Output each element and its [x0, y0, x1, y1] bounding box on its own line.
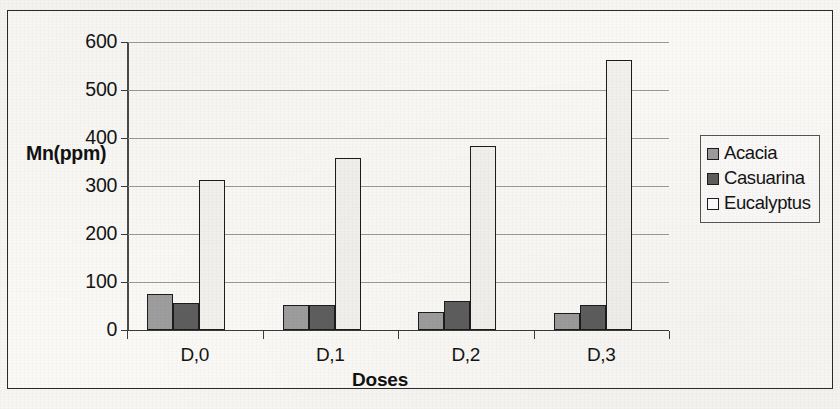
legend-item[interactable]: Casuarina — [707, 166, 811, 191]
x-axis-tick — [669, 331, 670, 339]
bar-casuarina[interactable] — [444, 301, 470, 330]
y-axis-tick-label: 600 — [85, 32, 117, 52]
legend-swatch-icon — [707, 173, 719, 185]
bar-group — [263, 42, 399, 330]
bar-group — [127, 42, 263, 330]
bar-eucalyptus[interactable] — [606, 60, 632, 330]
bar-acacia[interactable] — [147, 294, 173, 330]
y-axis-tick-label: 500 — [85, 80, 117, 100]
legend-label: Eucalyptus — [724, 194, 811, 213]
y-axis-tick — [121, 42, 128, 43]
bar-casuarina[interactable] — [580, 305, 606, 330]
bar-group — [398, 42, 534, 330]
y-axis-tick-label: 100 — [85, 272, 117, 292]
x-axis-title: Doses — [352, 369, 408, 390]
bar-eucalyptus[interactable] — [199, 180, 225, 330]
chart-legend: AcaciaCasuarinaEucalyptus — [700, 135, 820, 223]
bar-chart-figure: 6005004003002001000 Mn(ppm) D,0D,1D,2D,3… — [0, 0, 840, 409]
legend-label: Acacia — [724, 144, 777, 163]
legend-item[interactable]: Acacia — [707, 141, 811, 166]
x-axis-tick — [127, 331, 128, 339]
bar-eucalyptus[interactable] — [335, 158, 361, 330]
bar-eucalyptus[interactable] — [470, 146, 496, 330]
x-axis-tick-label: D,1 — [263, 344, 399, 366]
bar-casuarina[interactable] — [173, 303, 199, 330]
legend-label: Casuarina — [724, 169, 805, 188]
y-axis-tick — [121, 330, 128, 331]
y-axis-tick-label: 300 — [85, 176, 117, 196]
bar-acacia[interactable] — [283, 305, 309, 330]
x-axis-tick-label: D,2 — [398, 344, 534, 366]
y-axis-tick — [121, 138, 128, 139]
x-axis-tick-label: D,3 — [534, 344, 670, 366]
x-axis-tick — [534, 331, 535, 339]
y-axis-tick-label: 0 — [106, 320, 117, 340]
bar-group — [534, 42, 670, 330]
y-axis-tick-label: 200 — [85, 224, 117, 244]
y-axis-tick — [121, 234, 128, 235]
y-axis-title: Mn(ppm) — [26, 142, 106, 165]
legend-swatch-icon — [707, 148, 719, 160]
bar-acacia[interactable] — [418, 312, 444, 330]
bar-acacia[interactable] — [554, 313, 580, 330]
x-axis-tick — [263, 331, 264, 339]
bar-casuarina[interactable] — [309, 305, 335, 330]
legend-item[interactable]: Eucalyptus — [707, 191, 811, 216]
x-axis-title-wrap: Doses — [0, 369, 840, 391]
x-axis-tick — [398, 331, 399, 339]
legend-swatch-icon — [707, 198, 719, 210]
x-axis-tick-label: D,0 — [127, 344, 263, 366]
y-axis-tick — [121, 282, 128, 283]
y-axis-tick — [121, 90, 128, 91]
y-axis-tick — [121, 186, 128, 187]
plot-area — [127, 42, 669, 330]
y-axis-tick-labels: 6005004003002001000 — [0, 0, 117, 409]
